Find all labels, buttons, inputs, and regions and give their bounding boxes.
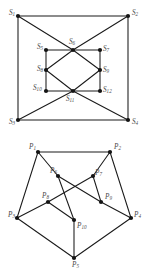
graph-edge (18, 91, 73, 120)
graph-edge (73, 16, 128, 50)
graph-vertex-s4 (126, 118, 130, 122)
graph-edge (46, 50, 73, 70)
vertex-label-s8: S8 (37, 65, 44, 74)
graph-vertex-s2 (126, 14, 130, 18)
graph-vertex-s3 (16, 118, 20, 122)
vertex-label-p4: P4 (133, 211, 141, 220)
vertex-label-s7: S7 (103, 45, 110, 54)
graph-edge (73, 50, 100, 70)
graph-edge (58, 176, 74, 220)
vertex-label-s3: S3 (9, 118, 16, 127)
graph-vertex-p4 (129, 216, 133, 220)
graph-vertex-p3 (15, 216, 19, 220)
vertex-label-s11: S11 (66, 95, 74, 104)
graph-vertex-s8 (44, 68, 48, 72)
graph-vertex-p10 (72, 218, 76, 222)
pentagon-graph-edges (17, 152, 131, 258)
square-graph-vertices (16, 14, 130, 122)
graph-vertex-s1 (16, 14, 20, 18)
graph-vertex-s7 (98, 48, 102, 52)
vertex-label-s12: S12 (103, 86, 112, 95)
graph-edge (48, 202, 74, 220)
figure-container: S1S2S3S4S5S6S7S8S9S10S11S12 P1P2P3P4P5P6… (0, 0, 146, 277)
pentagon-graph-diagram: P1P2P3P4P5P6P7P8P9P10 (0, 135, 146, 277)
graph-edge (73, 70, 100, 91)
vertex-label-p7: P7 (94, 169, 102, 178)
graph-vertex-p9 (99, 200, 103, 204)
graph-vertex-s11 (71, 89, 75, 93)
graph-vertex-s12 (98, 89, 102, 93)
vertex-label-s4: S4 (132, 118, 139, 127)
square-graph-labels: S1S2S3S4S5S6S7S8S9S10S11S12 (9, 9, 139, 127)
graph-vertex-s9 (98, 68, 102, 72)
graph-vertex-p2 (108, 150, 112, 154)
graph-edge (73, 91, 128, 120)
vertex-label-p9: P9 (104, 193, 112, 202)
graph-edge (18, 16, 73, 50)
graph-vertex-p8 (46, 200, 50, 204)
vertex-label-p1: P1 (28, 143, 36, 152)
vertex-label-s2: S2 (132, 9, 139, 18)
vertex-label-s5: S5 (37, 43, 44, 52)
vertex-label-p10: P10 (76, 222, 87, 231)
graph-edge (17, 152, 38, 218)
vertex-label-p3: P3 (7, 211, 15, 220)
square-graph-edges (18, 16, 128, 120)
graph-vertex-s10 (44, 89, 48, 93)
vertex-label-s9: S9 (103, 66, 110, 75)
vertex-label-s10: S10 (33, 84, 42, 93)
vertex-label-p5: P5 (71, 261, 79, 270)
graph-edge (46, 70, 73, 91)
vertex-label-s6: S6 (69, 38, 76, 47)
vertex-label-p8: P8 (41, 192, 49, 201)
graph-edge (48, 176, 93, 202)
graph-vertex-p1 (36, 150, 40, 154)
square-graph-diagram: S1S2S3S4S5S6S7S8S9S10S11S12 (0, 0, 146, 135)
graph-vertex-p5 (72, 256, 76, 260)
graph-edge (17, 218, 74, 258)
vertex-label-p2: P2 (113, 143, 121, 152)
graph-vertex-s6 (71, 48, 75, 52)
vertex-label-p6: P6 (49, 167, 57, 176)
graph-vertex-s5 (44, 48, 48, 52)
vertex-label-s1: S1 (9, 9, 15, 18)
